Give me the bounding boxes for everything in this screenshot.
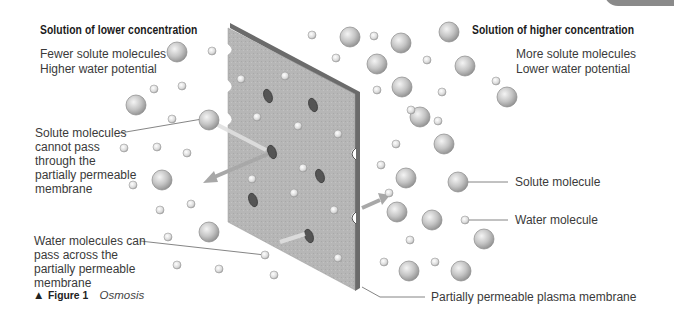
annotation-line: partially permeable xyxy=(35,168,136,183)
solute-molecule-label: Solute molecule xyxy=(515,175,600,190)
annotation-line: pass across the xyxy=(34,248,118,263)
right-solution-line1: More solute molecules xyxy=(516,47,636,62)
annotation-line: membrane xyxy=(35,182,92,197)
left-solution-line2: Higher water potential xyxy=(40,62,157,77)
annotation-line: Solute molecules xyxy=(35,126,126,141)
figure-title: Osmosis xyxy=(100,289,145,301)
left-solution-heading: Solution of lower concentration xyxy=(40,23,197,37)
right-solution-heading: Solution of higher concentration xyxy=(472,23,634,37)
annotation-line: Water molecules can xyxy=(34,234,146,249)
figure-number: Figure 1 xyxy=(48,289,88,301)
annotation-line: cannot pass xyxy=(35,140,100,155)
right-solution-line2: Lower water potential xyxy=(516,62,630,77)
left-solution-line1: Fewer solute molecules xyxy=(40,47,166,62)
figure-caption: ▲ Figure 1 Osmosis xyxy=(33,289,144,301)
triangle-marker-icon: ▲ xyxy=(33,289,44,301)
water-molecule-label: Water molecule xyxy=(515,213,598,228)
annotation-line: through the xyxy=(35,154,96,169)
annotation-line: partially permeable xyxy=(34,262,135,277)
membrane-label: Partially permeable plasma membrane xyxy=(431,290,636,305)
membrane xyxy=(228,28,355,290)
